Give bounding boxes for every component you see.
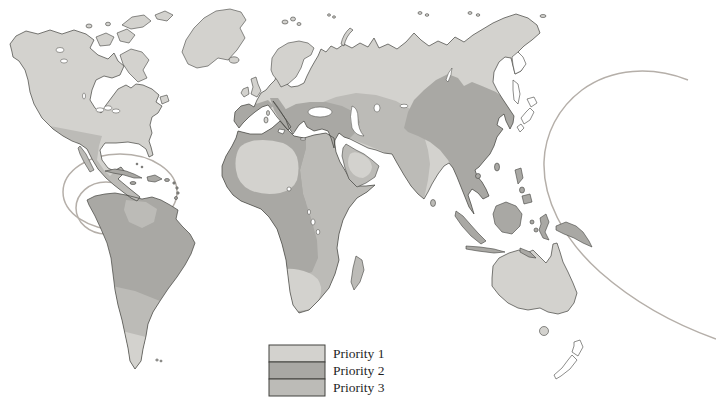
legend-label-priority-3: Priority 3 xyxy=(333,380,385,395)
borneo xyxy=(493,202,522,234)
victoria-island xyxy=(117,29,135,43)
trinidad xyxy=(175,197,178,200)
great-lake-michigan-huron xyxy=(104,106,112,110)
aral-sea xyxy=(374,104,380,112)
sri-lanka xyxy=(431,200,436,207)
japan-hokkaido xyxy=(527,97,537,107)
banks-island xyxy=(96,33,114,46)
new-siberian-islet-1 xyxy=(468,12,472,15)
arctic-islet-mid xyxy=(106,22,111,26)
jamaica xyxy=(130,182,136,185)
wrangel-island xyxy=(540,15,546,18)
newfoundland xyxy=(160,95,169,104)
philippines-mindanao xyxy=(522,194,532,204)
australia xyxy=(492,243,577,314)
great-lake-erie-ontario xyxy=(112,109,120,113)
legend-swatch-priority-3 xyxy=(269,379,325,396)
svalbard-island-3 xyxy=(297,23,301,26)
great-slave-lake xyxy=(61,59,68,63)
lesser-antilles-2 xyxy=(176,187,178,189)
lake-chad xyxy=(287,187,291,191)
sardinia xyxy=(264,117,268,123)
new-siberian-islet-2 xyxy=(476,14,480,17)
new-zealand-south-island xyxy=(554,355,577,379)
japan-kyushu xyxy=(517,124,524,132)
iceland xyxy=(229,57,239,63)
ireland xyxy=(241,87,249,97)
legend-swatch-priority-2 xyxy=(269,362,325,379)
new-zealand-north-island xyxy=(572,340,583,356)
bahamas-2 xyxy=(141,166,143,168)
moluccas-2 xyxy=(534,228,538,232)
sumatra xyxy=(455,211,486,244)
world-map: Priority 1 Priority 2 Priority 3 xyxy=(0,0,716,405)
great-lake-superior xyxy=(96,108,104,112)
tasmania xyxy=(540,327,549,336)
legend: Priority 1 Priority 2 Priority 3 xyxy=(269,345,385,396)
great-bear-lake xyxy=(56,48,64,53)
taiwan xyxy=(495,163,500,171)
lake-balkhash xyxy=(400,104,408,108)
lesser-antilles-3 xyxy=(177,192,179,194)
philippines-luzon xyxy=(515,168,523,184)
world-map-figure: Priority 1 Priority 2 Priority 3 xyxy=(0,0,716,405)
patagonia-overlay xyxy=(92,328,158,380)
baffin-island xyxy=(120,49,149,82)
philippines-visayas xyxy=(520,187,525,193)
lake-winnipeg xyxy=(83,93,86,99)
svalbard-island-1 xyxy=(282,20,288,24)
rift-lake-2 xyxy=(316,230,320,235)
sakhalin xyxy=(513,80,520,104)
moluccas-1 xyxy=(530,220,534,224)
svalbard-island-2 xyxy=(291,17,296,21)
java xyxy=(466,246,505,253)
hispaniola xyxy=(147,175,162,182)
lake-victoria xyxy=(311,219,315,225)
severnaya-islet-1 xyxy=(418,12,422,15)
legend-swatch-priority-1 xyxy=(269,345,325,362)
britain xyxy=(251,77,261,97)
novaya-zemlya xyxy=(341,28,353,46)
crete xyxy=(300,138,306,140)
sulawesi xyxy=(539,214,549,240)
rift-lake-1 xyxy=(308,210,311,215)
bahamas-1 xyxy=(136,163,138,165)
lesser-antilles-1 xyxy=(173,182,175,184)
corsica xyxy=(267,111,270,116)
falkland-islet-2 xyxy=(160,360,162,362)
legend-label-priority-1: Priority 1 xyxy=(333,346,384,361)
black-sea xyxy=(308,107,332,117)
kamchatka xyxy=(512,52,526,74)
legend-label-priority-2: Priority 2 xyxy=(333,363,384,378)
puerto-rico xyxy=(165,179,170,182)
madagascar xyxy=(351,256,364,290)
hainan xyxy=(476,174,481,179)
devon-island xyxy=(122,15,151,29)
arctic-islet-west xyxy=(86,24,92,28)
sahara-interior-overlay xyxy=(236,140,299,194)
ellesmere-island xyxy=(155,11,173,21)
franz-josef-islet-1 xyxy=(328,14,331,16)
severnaya-islet-2 xyxy=(425,14,429,17)
falkland-islet-1 xyxy=(156,359,159,361)
japan-honshu xyxy=(521,108,534,124)
franz-josef-islet-2 xyxy=(333,16,336,18)
